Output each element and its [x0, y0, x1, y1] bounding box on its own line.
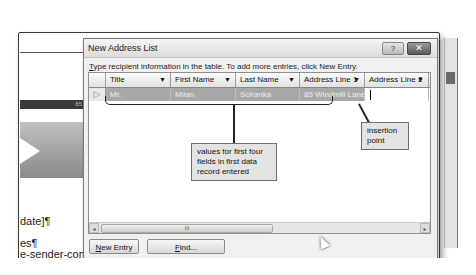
- dropdown-arrow-icon[interactable]: ▼: [224, 73, 231, 87]
- dropdown-arrow-icon[interactable]: ▼: [417, 73, 424, 87]
- dropdown-arrow-icon[interactable]: ▼: [159, 73, 166, 87]
- column-header-last-name[interactable]: Last Name▼: [236, 73, 300, 87]
- find-button[interactable]: Find...: [147, 239, 225, 254]
- row-selector-icon[interactable]: ▷: [89, 88, 106, 101]
- callout-insertion-point: insertion point: [361, 122, 409, 150]
- column-header-title[interactable]: Title▼: [106, 73, 171, 87]
- dialog-titlebar: New Address List ? ✕: [84, 39, 437, 58]
- document-dark-band: 85 C: [20, 100, 90, 109]
- instruction-text: Type recipient information in the table.…: [84, 58, 437, 73]
- close-button[interactable]: ✕: [407, 42, 431, 55]
- annotation-brace: [105, 96, 333, 105]
- annotation-leader-line: [233, 104, 235, 144]
- dialog-title: New Address List: [88, 43, 158, 53]
- scroll-right-icon[interactable]: ▸: [420, 223, 430, 233]
- select-all-cell[interactable]: [89, 73, 106, 87]
- column-header-first-name[interactable]: First Name▼: [171, 73, 236, 87]
- insertion-point: [370, 90, 371, 100]
- document-text-date: date]¶: [20, 215, 50, 227]
- cell-address-line-2[interactable]: [365, 88, 429, 101]
- horizontal-scrollbar[interactable]: ◂ III ▸: [89, 222, 430, 233]
- scrollbar-thumb[interactable]: III: [101, 224, 273, 233]
- background-vertical-scrollbar[interactable]: [444, 38, 458, 248]
- dropdown-arrow-icon[interactable]: ▼: [288, 73, 295, 87]
- callout-values-first-four-fields: values for first four fields in first da…: [191, 143, 277, 181]
- new-entry-button[interactable]: New Entry: [89, 239, 139, 254]
- scrollbar-thumb[interactable]: [446, 72, 455, 84]
- column-header-address-line-1[interactable]: Address Line 1▼: [300, 73, 365, 87]
- column-header-address-line-2[interactable]: Address Line 2▼: [365, 73, 429, 87]
- help-button[interactable]: ?: [382, 42, 404, 55]
- document-rule: [20, 52, 90, 53]
- arrow-shape-icon: [20, 138, 40, 164]
- torn-page-edge: [0, 258, 476, 275]
- scroll-left-icon[interactable]: ◂: [89, 223, 99, 233]
- table-header: Title▼ First Name▼ Last Name▼ Address Li…: [89, 73, 430, 88]
- dropdown-arrow-icon[interactable]: ▼: [353, 73, 360, 87]
